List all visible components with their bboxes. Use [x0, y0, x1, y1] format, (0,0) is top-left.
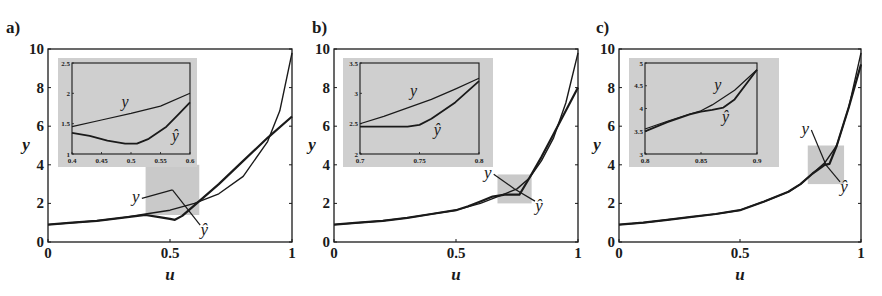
y-axis-label: y: [591, 135, 601, 154]
inset-curve-label: y: [408, 82, 418, 100]
curve-label: ŷ: [198, 220, 208, 239]
y-tick-label: 6: [608, 118, 616, 134]
curve-label: y: [482, 163, 492, 182]
inset-curve-label: y: [712, 76, 722, 94]
x-tick-label: 1: [857, 245, 865, 261]
inset-x-tick-label: 0.5: [127, 157, 136, 165]
y-tick-label: 0: [608, 234, 616, 250]
y-tick-label: 6: [37, 118, 45, 134]
x-axis-label: u: [451, 265, 460, 284]
inset-x-tick-label: 0.85: [695, 157, 708, 165]
y-tick-label: 10: [29, 41, 44, 57]
y-tick-label: 8: [323, 80, 331, 96]
x-axis-label: u: [735, 265, 744, 284]
inset-x-tick-label: 0.55: [154, 157, 167, 165]
y-tick-label: 0: [37, 234, 45, 250]
inset-y-tick-label: 4: [640, 105, 644, 113]
y-tick-label: 2: [323, 195, 331, 211]
inset-x-tick-label: 0.8: [475, 157, 484, 165]
y-axis-label: y: [306, 135, 316, 154]
inset-x-tick-label: 0.45: [95, 157, 108, 165]
inset-y-tick-label: 5: [640, 60, 644, 68]
inset-y-tick-label: 3: [355, 90, 359, 98]
y-tick-label: 8: [608, 80, 616, 96]
panel-label: c): [596, 18, 609, 37]
panel-label: b): [312, 18, 327, 37]
inset-y-tick-label: 3.5: [634, 128, 643, 136]
x-tick-label: 0: [44, 245, 52, 261]
y-axis-label: y: [20, 135, 30, 154]
inset-background: [58, 58, 197, 167]
x-tick-label: 0.5: [161, 245, 180, 261]
inset-y-tick-label: 2: [67, 90, 71, 98]
y-tick-label: 4: [37, 157, 45, 173]
x-tick-label: 1: [288, 245, 296, 261]
x-tick-label: 0: [330, 245, 338, 261]
y-tick-label: 2: [608, 195, 616, 211]
x-tick-label: 0.5: [447, 245, 466, 261]
curve-label: y: [130, 187, 140, 206]
curve-label: y: [800, 119, 810, 138]
figure: a)024681000.51uyyŷ11.522.50.40.450.50.55…: [0, 0, 882, 296]
inset-y-tick-label: 1.5: [61, 120, 70, 128]
x-tick-label: 0: [615, 245, 623, 261]
figure-canvas: a)024681000.51uyyŷ11.522.50.40.450.50.55…: [0, 0, 882, 296]
panel-c: c)024681000.51uyyŷ33.544.550.80.850.9yŷ: [591, 18, 865, 284]
x-tick-label: 1: [574, 245, 582, 261]
x-axis-label: u: [165, 265, 174, 284]
inset-y-tick-label: 4.5: [634, 82, 643, 90]
y-tick-label: 4: [608, 157, 616, 173]
y-tick-label: 10: [315, 41, 330, 57]
inset-x-tick-label: 0.8: [641, 157, 650, 165]
panel-label: a): [6, 18, 20, 37]
y-tick-label: 8: [37, 80, 45, 96]
inset-y-tick-label: 3.5: [349, 60, 358, 68]
y-tick-label: 0: [323, 234, 331, 250]
y-tick-label: 6: [323, 118, 331, 134]
y-tick-label: 10: [600, 41, 615, 57]
inset-y-tick-label: 2.5: [61, 60, 70, 68]
inset-x-tick-label: 0.6: [186, 157, 195, 165]
inset-x-tick-label: 0.7: [356, 157, 365, 165]
inset-x-tick-label: 0.75: [413, 157, 426, 165]
y-tick-label: 4: [323, 157, 331, 173]
inset-x-tick-label: 0.4: [68, 157, 77, 165]
inset-y-tick-label: 2.5: [349, 120, 358, 128]
curve-label: ŷ: [533, 196, 543, 215]
panel-b: b)024681000.51uyyŷ22.533.50.70.750.8yŷ: [306, 18, 582, 284]
inset-curve-label: ŷ: [432, 121, 442, 139]
x-tick-label: 0.5: [731, 245, 750, 261]
inset-curve-label: ŷ: [720, 108, 730, 126]
inset-x-tick-label: 0.9: [753, 157, 762, 165]
panel-a: a)024681000.51uyyŷ11.522.50.40.450.50.55…: [6, 18, 296, 284]
curve-label: ŷ: [838, 177, 848, 196]
inset-curve-label: y: [120, 93, 130, 111]
inset-curve-label: ŷ: [170, 127, 180, 145]
y-tick-label: 2: [37, 195, 45, 211]
inset-background: [343, 58, 493, 167]
